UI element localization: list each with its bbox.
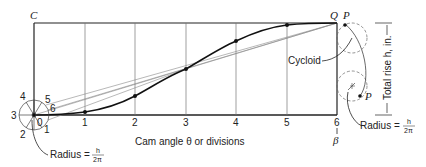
circle-label-3: 3 — [11, 110, 17, 121]
x-axis-label: Cam angle θ or divisions — [135, 136, 245, 147]
x-tick-6: 6 — [334, 117, 340, 128]
corner-label-c: C — [30, 9, 38, 21]
circle-label-2: 2 — [20, 129, 26, 140]
radius-left-label: Radius = — [50, 149, 90, 160]
rolling-circles — [337, 23, 367, 101]
point-p-bottom — [358, 94, 362, 98]
x-tick-1: 1 — [82, 117, 88, 128]
beta-label: β — [332, 134, 339, 146]
corner-label-p: P — [342, 9, 350, 21]
circle-label-1: 1 — [44, 124, 50, 135]
radius-right-den: 2π — [404, 127, 413, 134]
radius-left-den: 2π — [93, 156, 102, 163]
projection-lines — [34, 23, 337, 120]
circle-label-0: 0 — [37, 117, 43, 128]
rolling-path — [345, 24, 366, 96]
x-tick-4: 4 — [233, 117, 239, 128]
y-axis-label: Total rise h, in. — [382, 36, 393, 100]
point-p-top — [343, 23, 347, 27]
radius-left-num: h — [96, 147, 100, 154]
x-tick-3: 3 — [183, 117, 189, 128]
cycloid-cam-diagram: 0 1 2 3 4 5 6 C Q P 1 2 3 4 5 6 β Cam an… — [0, 0, 426, 167]
corner-label-q: Q — [330, 9, 338, 21]
x-tick-2: 2 — [132, 117, 138, 128]
circle-label-6: 6 — [50, 103, 56, 114]
rolling-point-label: P — [364, 90, 372, 102]
x-tick-5: 5 — [284, 117, 290, 128]
radius-right-num: h — [407, 118, 411, 125]
radius-right-label: Radius = — [360, 120, 400, 131]
radius-arrow — [348, 83, 355, 90]
cycloid-label: Cycloid — [288, 55, 321, 66]
circle-label-4: 4 — [20, 91, 26, 102]
